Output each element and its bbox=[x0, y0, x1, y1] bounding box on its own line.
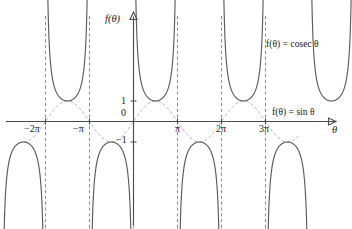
x-axis-label: θ bbox=[332, 125, 337, 136]
x-tick-label-pi: π bbox=[175, 124, 180, 134]
x-tick-label-neg-pi: −π bbox=[73, 124, 84, 134]
cosec-branch-path bbox=[311, 0, 352, 101]
cosec-branch-path bbox=[47, 0, 88, 101]
y-tick-label-one: 1 bbox=[121, 96, 126, 106]
cosec-branch-path bbox=[135, 0, 176, 101]
cosec-branch-path bbox=[223, 0, 264, 101]
y-tick-label-neg-one: −1 bbox=[116, 135, 127, 145]
x-tick-label-3pi: 3π bbox=[259, 124, 269, 134]
cosec-branch-path bbox=[179, 142, 220, 229]
cosec-branch-path bbox=[91, 142, 132, 229]
cosec-branch-path bbox=[3, 142, 44, 229]
cosec-sin-graph-figure: f(θ) θ −2π −π π 2π 3π 1 0 −1 f(θ) = cose… bbox=[0, 0, 352, 229]
y-tick-label-zero: 0 bbox=[121, 108, 126, 118]
cosec-equation-label: f(θ) = cosec θ bbox=[266, 39, 319, 49]
y-axis-label: f(θ) bbox=[105, 14, 120, 25]
sin-equation-label: f(θ) = sin θ bbox=[272, 107, 315, 117]
x-tick-label-2pi: 2π bbox=[216, 124, 226, 134]
x-tick-label-neg-2pi: −2π bbox=[24, 124, 40, 134]
cosec-branch-path bbox=[267, 142, 308, 229]
